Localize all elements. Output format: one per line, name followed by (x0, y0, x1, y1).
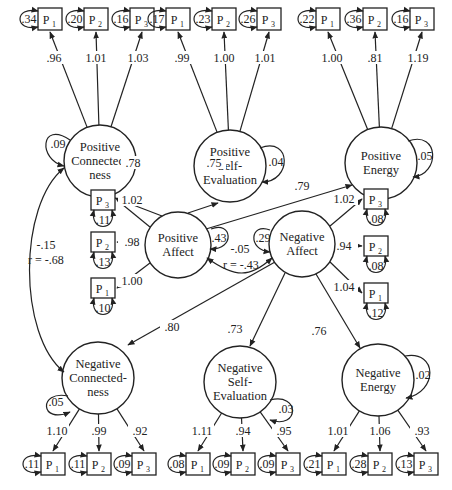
neg-affect-indicator-2: P2.08 (364, 236, 388, 273)
pos_self-indicator-2: P2.23 (194, 8, 236, 30)
indicator-subscript: 2 (382, 465, 386, 474)
pos_energy-factor-label: Energy (363, 163, 400, 177)
indicator-subscript: 2 (101, 465, 105, 474)
pos_energy-loading-path-1 (328, 32, 368, 130)
neg_conn-indicator-2: P2.11 (69, 453, 111, 475)
neg-conn-residual: .05 (49, 395, 64, 409)
factor-loading: .95 (277, 424, 292, 438)
indicator-label: P (217, 13, 224, 27)
error-variance: .09 (260, 457, 275, 471)
indicator-subscript: 1 (55, 465, 59, 474)
factor-loading: 1.02 (334, 192, 355, 206)
indicator-box (364, 236, 388, 256)
neg_conn-indicator-3: P3.09 (114, 453, 156, 475)
pos-affect-indicator-3: P3.11 (91, 190, 115, 227)
neg_self-indicator-1: P1.08 (168, 453, 210, 475)
indicator-label: P (135, 13, 142, 27)
error-variance: .08 (369, 212, 384, 226)
neg-affect-factor: NegativeAffect (269, 211, 335, 277)
factor-loading: 1.03 (128, 51, 149, 65)
indicator-subscript: 3 (428, 465, 432, 474)
indicator-subscript: 3 (378, 200, 382, 209)
indicator-subscript: 2 (377, 20, 381, 29)
pos-affect-indicator-1: P1.10 (91, 278, 115, 315)
factor-loading: 1.11 (192, 424, 213, 438)
factor-loading: .94 (337, 239, 352, 253)
pos_self-loading-path-3 (240, 32, 269, 131)
neg_conn-factor: NegativeConnected-ness (62, 342, 134, 414)
indicator-subscript: 2 (378, 247, 382, 256)
indicator-label: P (368, 13, 375, 27)
pos_energy-indicator-1: P1.22 (298, 8, 340, 30)
neg-energy-residual: .02 (416, 368, 431, 382)
path-coefficient: .76 (312, 324, 327, 338)
indicator-box (410, 8, 434, 30)
factor-loading: .93 (415, 424, 430, 438)
indicator-label: P (321, 13, 328, 27)
indicator-subscript: 3 (105, 201, 109, 210)
indicator-subscript: 2 (245, 465, 249, 474)
indicator-subscript: 3 (290, 465, 294, 474)
neg_self-indicator-3: P3.09 (258, 453, 300, 475)
path-coefficient: .73 (228, 322, 243, 336)
factor-loading: 1.01 (328, 424, 349, 438)
indicator-label: P (96, 236, 103, 250)
neg_conn-factor-label: Negative (75, 357, 121, 371)
connectedness-covariance-arc (30, 168, 65, 372)
neg_energy-factor-label: Energy (360, 380, 397, 394)
indicator-label: P (281, 458, 288, 472)
pos_energy-loading-path-2 (375, 32, 379, 127)
indicator-subscript: 1 (336, 465, 340, 474)
pos_conn-indicator-2: P2.20 (66, 8, 108, 30)
indicator-box (41, 453, 65, 475)
pos_energy-indicator-2: P2.36 (345, 8, 387, 30)
neg_energy-indicator-3: P3.13 (396, 453, 438, 475)
pos_energy-loading-path-3 (392, 32, 422, 129)
pos-conn-residual: .09 (51, 137, 66, 151)
factor-loading: 1.01 (86, 51, 107, 65)
neg_self-factor-label: Self- (228, 375, 252, 389)
indicator-label: P (236, 458, 243, 472)
error-variance: .34 (22, 12, 37, 26)
indicator-box (257, 8, 281, 30)
indicator-box (364, 283, 388, 303)
indicator-subscript: 2 (98, 20, 102, 29)
pos_conn-indicator-1: P1.34 (20, 8, 62, 30)
indicator-box (231, 453, 255, 475)
factor-loading: .96 (47, 51, 62, 65)
indicator-subscript: 3 (271, 20, 275, 29)
indicator-box (166, 8, 190, 30)
neg_self-indicator-2: P2.09 (213, 453, 255, 475)
pos-affect-factor-label: Positive (158, 231, 199, 245)
indicator-box (276, 453, 300, 475)
pos-affect-factor-label: Affect (162, 245, 194, 259)
neg_energy-indicator-1: P1.21 (304, 453, 346, 475)
connectedness-correlation: r = -.68 (28, 253, 64, 267)
pos-affect-residual: .43 (212, 231, 227, 245)
error-variance: .36 (347, 12, 362, 26)
indicator-subscript: 3 (424, 20, 428, 29)
indicator-box (132, 453, 156, 475)
indicator-box (316, 8, 340, 30)
pos_energy-indicator-3: P3.16 (392, 8, 434, 30)
indicator-label: P (96, 282, 103, 296)
error-variance: .09 (215, 457, 230, 471)
error-variance: .13 (398, 457, 413, 471)
path-coefficient: .75 (207, 156, 222, 170)
indicator-box (363, 8, 387, 30)
indicator-box (91, 278, 115, 298)
error-variance: .12 (369, 306, 384, 320)
indicator-subscript: 1 (180, 20, 184, 29)
pos-energy-residual: .05 (418, 149, 433, 163)
factor-loading: 1.00 (214, 51, 235, 65)
pos_conn-factor-label: ness (89, 168, 111, 182)
error-variance: .16 (114, 12, 129, 26)
indicator-box (364, 189, 388, 209)
pos_self-factor-label: Evaluation (203, 173, 258, 187)
neg-affect-indicator-3: P3.08 (364, 189, 388, 226)
pos_self-loading-path-2 (224, 32, 228, 130)
pos-affect-factor: PositiveAffect (145, 212, 211, 278)
pos-affect-indicator-2: P2.13 (91, 232, 115, 269)
indicator-box (414, 453, 438, 475)
factor-loading: 1.10 (47, 424, 68, 438)
